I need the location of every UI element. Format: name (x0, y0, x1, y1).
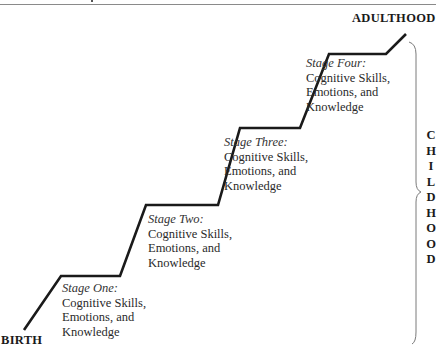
stage-line: Knowledge (62, 325, 146, 340)
stage-three-text: Stage Three: Cognitive Skills, Emotions,… (224, 135, 308, 193)
childhood-letter: H (424, 144, 438, 160)
birth-label: BIRTH (1, 333, 42, 348)
stage-title: Stage Two: (148, 212, 232, 227)
stage-line: Emotions, and (62, 310, 146, 325)
stage-line: Emotions, and (224, 164, 308, 179)
childhood-letter: H (424, 206, 438, 222)
stage-one-text: Stage One: Cognitive Skills, Emotions, a… (62, 281, 146, 339)
childhood-letter: L (424, 175, 438, 191)
stage-line: Emotions, and (148, 241, 232, 256)
stage-line: Cognitive Skills, (62, 296, 146, 311)
childhood-letter: O (424, 221, 438, 237)
stage-two-text: Stage Two: Cognitive Skills, Emotions, a… (148, 212, 232, 270)
stage-line: Knowledge (148, 256, 232, 271)
stage-line: Emotions, and (306, 85, 390, 100)
stage-line: Cognitive Skills, (148, 227, 232, 242)
childhood-label: C H I L D H O O D (424, 128, 438, 268)
stage-four-text: Stage Four: Cognitive Skills, Emotions, … (306, 56, 390, 114)
childhood-letter: D (424, 252, 438, 268)
childhood-letter: C (424, 128, 438, 144)
adulthood-label: ADULTHOOD (352, 11, 436, 26)
stage-title: Stage One: (62, 281, 146, 296)
stage-title: Stage Three: (224, 135, 308, 150)
childhood-bracket (409, 42, 421, 344)
childhood-letter: I (424, 159, 438, 175)
stage-line: Knowledge (306, 100, 390, 115)
stage-line: Knowledge (224, 179, 308, 194)
stage-line: Cognitive Skills, (306, 71, 390, 86)
stage-title: Stage Four: (306, 56, 390, 71)
childhood-letter: O (424, 237, 438, 253)
childhood-letter: D (424, 190, 438, 206)
stage-line: Cognitive Skills, (224, 150, 308, 165)
